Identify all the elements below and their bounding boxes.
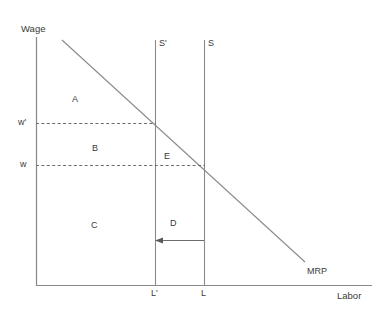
supply-curve-label: S	[208, 39, 214, 48]
labor-market-diagram	[0, 0, 378, 311]
labor-tick-equilibrium-label: L	[201, 289, 206, 298]
area-label-d: D	[170, 219, 177, 228]
mrp-curve-line	[62, 40, 305, 262]
area-label-e: E	[164, 152, 170, 161]
diagram-canvas: Wage Labor S' S MRP w' w L' L A B C D E	[0, 0, 378, 311]
area-label-b: B	[92, 144, 98, 153]
mrp-curve-label: MRP	[307, 267, 327, 276]
y-axis-label: Wage	[21, 24, 45, 34]
x-axis-label: Labor	[337, 291, 361, 301]
area-label-c: C	[91, 221, 98, 230]
labor-tick-restricted-label: L'	[151, 289, 158, 298]
area-label-a: A	[72, 95, 78, 104]
supply-curve-restricted-label: S'	[159, 39, 167, 48]
labor-reduction-arrow-head	[155, 237, 163, 243]
wage-tick-restricted-label: w'	[18, 118, 26, 127]
wage-tick-equilibrium-label: w	[20, 160, 27, 169]
